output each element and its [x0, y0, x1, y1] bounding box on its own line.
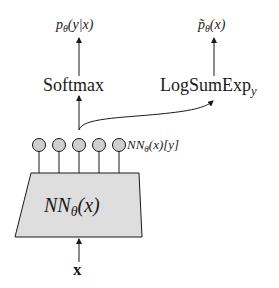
nn-symbol: NN — [127, 137, 144, 152]
logit-node-3 — [73, 139, 86, 152]
network-arg: (x) — [78, 194, 100, 216]
logits-arg: (x)[y] — [149, 137, 179, 152]
logsumexp-label: LogSumExpy — [160, 75, 257, 99]
logit-node-5 — [113, 139, 126, 152]
logit-node-2 — [53, 139, 66, 152]
network-label: NNθ(x) — [44, 194, 100, 220]
conditional-output-label: pθ(y|x) — [56, 17, 93, 34]
marginal-output-label: p̃θ(x) — [198, 17, 225, 34]
nn-symbol: NN — [44, 194, 71, 216]
marginal-arg: (x) — [210, 17, 226, 32]
y-subscript: y — [251, 84, 257, 98]
p-tilde-symbol: p̃ — [198, 17, 205, 32]
input-label: x — [73, 260, 82, 280]
theta-subscript: θ — [71, 204, 78, 219]
logits-to-logsumexp-arrow — [79, 101, 213, 130]
logsumexp-text: LogSumExp — [160, 75, 251, 95]
logit-node-1 — [33, 139, 46, 152]
logit-node-4 — [93, 139, 106, 152]
logits-label: NNθ(x)[y] — [127, 137, 179, 154]
p-symbol: p — [56, 17, 63, 32]
logit-stems — [39, 152, 119, 173]
logit-nodes — [33, 139, 126, 152]
softmax-label: Softmax — [43, 75, 104, 96]
conditional-arg: (y|x) — [68, 17, 94, 32]
